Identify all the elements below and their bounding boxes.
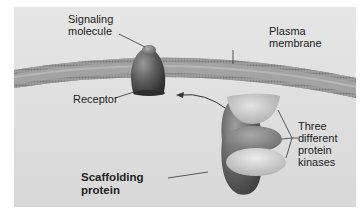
- label-plasma-membrane: Plasma membrane: [269, 25, 322, 49]
- label-line: protein: [81, 184, 144, 197]
- diagram-stage: Signaling molecule Plasma membrane Recep…: [0, 0, 363, 215]
- label-line: Plasma: [269, 25, 322, 37]
- label-line: different: [298, 132, 338, 144]
- label-line: membrane: [269, 37, 322, 49]
- label-scaffolding-protein: Scaffolding protein: [81, 171, 144, 197]
- label-line: Scaffolding: [81, 171, 144, 184]
- label-line: protein: [298, 144, 338, 156]
- label-protein-kinases: Three different protein kinases: [298, 120, 338, 168]
- label-line: Receptor: [73, 93, 118, 105]
- label-receptor: Receptor: [73, 93, 118, 105]
- label-line: molecule: [68, 25, 113, 37]
- label-line: Signaling: [68, 13, 113, 25]
- label-line: Three: [298, 120, 338, 132]
- protein-kinase-bottom: [226, 148, 286, 176]
- label-line: kinases: [298, 156, 338, 168]
- label-signaling-molecule: Signaling molecule: [68, 13, 113, 37]
